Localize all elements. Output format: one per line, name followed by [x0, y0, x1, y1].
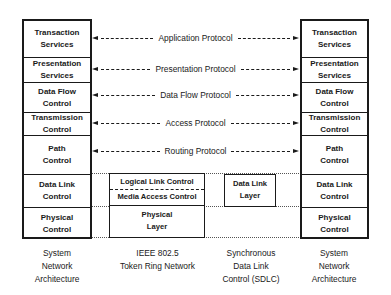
caption-right-sna: System Network Architecture	[291, 247, 377, 286]
layer-data-flow-control: Data Flow Control	[24, 83, 90, 113]
arrow-left-icon	[92, 93, 98, 97]
caption-sdlc: Synchronous Data Link Control (SDLC)	[210, 247, 292, 286]
logical-link-control: Logical Link Control	[110, 175, 204, 189]
physical-layer: Physical Layer	[110, 206, 204, 236]
arrow-left-icon	[92, 149, 98, 153]
layer-physical-control: Physical Control	[24, 208, 90, 239]
arrow-right-icon	[293, 93, 299, 97]
arrow-right-icon	[293, 149, 299, 153]
protocol-presentation: Presentation Protocol	[92, 63, 299, 75]
arrow-left-icon	[92, 121, 98, 125]
layer-transmission-control: Transmission Control	[24, 113, 90, 136]
protocol-access: Access Protocol	[92, 117, 299, 129]
dashed-line	[231, 151, 290, 152]
protocol-label: Data Flow Protocol	[158, 90, 233, 100]
dashed-line	[101, 123, 160, 124]
layer-presentation-services: Presentation Services	[302, 58, 367, 83]
dashed-line	[241, 69, 290, 70]
protocol-routing: Routing Protocol	[92, 145, 299, 157]
sdlc-data-link-box: Data Link Layer	[224, 174, 276, 207]
arrow-right-icon	[293, 67, 299, 71]
dashed-line	[101, 38, 153, 39]
dashed-line	[231, 123, 290, 124]
dashed-line	[238, 38, 290, 39]
arrow-right-icon	[293, 36, 299, 40]
layer-transaction-services: Transaction Services	[24, 21, 90, 58]
protocol-label: Application Protocol	[156, 33, 234, 43]
layer-physical-control: Physical Control	[302, 208, 367, 239]
layer-data-link-control: Data Link Control	[24, 175, 90, 208]
layer-transaction-services: Transaction Services	[302, 21, 367, 58]
protocol-label: Access Protocol	[163, 118, 227, 128]
dashed-line	[101, 95, 155, 96]
layer-transmission-control: Transmission Control	[302, 113, 367, 136]
layer-data-link-control: Data Link Control	[302, 175, 367, 208]
layer-path-control: Path Control	[24, 136, 90, 175]
dashed-line	[236, 95, 290, 96]
right-sna-stack: Transaction Services Presentation Servic…	[300, 19, 369, 239]
layer-path-control: Path Control	[302, 136, 367, 175]
arrow-left-icon	[92, 67, 98, 71]
protocol-application: Application Protocol	[92, 32, 299, 44]
protocol-data-flow: Data Flow Protocol	[92, 89, 299, 101]
caption-left-sna: System Network Architecture	[14, 247, 100, 286]
protocol-label: Presentation Protocol	[153, 64, 237, 74]
left-sna-stack: Transaction Services Presentation Servic…	[22, 19, 92, 239]
token-ring-stack: Logical Link Control Media Access Contro…	[109, 173, 205, 238]
arrow-right-icon	[293, 121, 299, 125]
data-link-layer: Data Link Layer	[225, 175, 275, 205]
dashed-line	[101, 151, 160, 152]
arrow-left-icon	[92, 36, 98, 40]
dashed-line	[101, 69, 150, 70]
media-access-control: Media Access Control	[110, 190, 204, 204]
protocol-label: Routing Protocol	[163, 146, 229, 156]
caption-token-ring: IEEE 802.5 Token Ring Network	[100, 247, 215, 273]
layer-data-flow-control: Data Flow Control	[302, 83, 367, 113]
layer-presentation-services: Presentation Services	[24, 58, 90, 83]
